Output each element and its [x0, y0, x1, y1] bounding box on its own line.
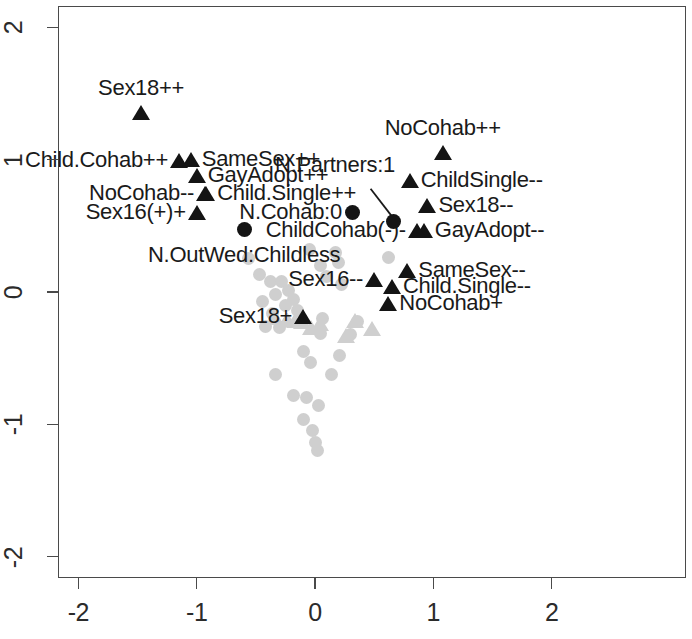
y-axis-tick-label: 0: [0, 263, 28, 323]
y-axis-tick-label: 2: [0, 0, 28, 58]
y-axis-tick: [47, 291, 58, 293]
y-axis-tick: [47, 159, 58, 161]
background-triangle-point: [337, 328, 355, 343]
background-triangle-point: [346, 313, 364, 328]
x-axis-tick-label: 2: [522, 598, 582, 627]
background-circle-point: [269, 368, 282, 381]
x-axis-tick: [78, 578, 80, 589]
x-axis-tick: [196, 578, 198, 589]
background-circle-point: [325, 368, 338, 381]
y-axis-tick-label: 1: [0, 130, 28, 190]
point-label: Sex18++: [98, 77, 184, 99]
highlight-triangle-point: [188, 205, 206, 220]
background-circle-point: [312, 399, 325, 412]
y-axis-tick-label: -2: [0, 527, 28, 587]
point-label: N.OutWed:Childless: [148, 244, 340, 266]
highlight-triangle-point: [365, 272, 383, 287]
highlight-triangle-point: [182, 152, 200, 167]
background-circle-point: [287, 389, 300, 402]
plot-data-area: Sex18++Child.Cohab++SameSex++GayAdopt++N…: [0, 0, 692, 639]
x-axis-tick-label: -1: [167, 598, 227, 627]
point-label: N.Cohab:0: [239, 201, 341, 223]
highlight-triangle-point: [434, 145, 452, 160]
point-label: NoCohab++: [385, 117, 501, 139]
point-label: Sex16--: [288, 268, 363, 290]
point-label: NoCohab+: [399, 292, 502, 314]
x-axis-tick-label: -2: [48, 598, 108, 627]
background-circle-point: [304, 356, 317, 369]
background-triangle-point: [311, 316, 329, 331]
point-label: ChildSingle--: [421, 169, 543, 191]
point-label: GayAdopt--: [435, 219, 545, 241]
highlight-triangle-point: [408, 223, 426, 238]
y-axis-tick: [47, 27, 58, 29]
x-axis-tick: [314, 578, 316, 589]
background-circle-point: [300, 391, 313, 404]
x-axis-tick: [433, 578, 435, 589]
x-axis-tick: [551, 578, 553, 589]
highlight-triangle-point: [401, 173, 419, 188]
y-axis-tick-label: -1: [0, 395, 28, 455]
scatter-plot-figure: Sex18++Child.Cohab++SameSex++GayAdopt++N…: [0, 0, 692, 639]
background-circle-point: [333, 349, 346, 362]
highlight-triangle-point: [379, 296, 397, 311]
background-circle-point: [269, 288, 282, 301]
highlight-triangle-point: [132, 105, 150, 120]
point-label: Sex18+: [219, 305, 292, 327]
point-label: N.Partners:1: [275, 154, 395, 176]
y-axis-tick: [47, 556, 58, 558]
y-axis-tick: [47, 424, 58, 426]
highlight-triangle-point: [383, 279, 401, 294]
background-circle-point: [297, 413, 310, 426]
point-label: Sex16(+)+: [86, 201, 186, 223]
highlight-triangle-point: [418, 198, 436, 213]
highlight-triangle-point: [294, 309, 312, 324]
background-circle-point: [382, 251, 395, 264]
background-triangle-point: [363, 321, 381, 336]
point-label: Sex18--: [438, 194, 513, 216]
background-circle-point: [311, 444, 324, 457]
x-axis-tick-label: 1: [403, 598, 463, 627]
highlight-circle-point: [237, 222, 252, 237]
highlight-triangle-point: [197, 186, 215, 201]
x-axis-tick-label: 0: [285, 598, 345, 627]
highlight-circle-point: [386, 214, 401, 229]
